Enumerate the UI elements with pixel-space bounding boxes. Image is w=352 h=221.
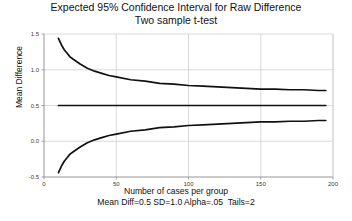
y-tick-label: 0.5	[31, 103, 40, 109]
y-tick-label: 0.0	[31, 138, 40, 144]
x-axis-label-block: Number of cases per group Mean Diff=0.5 …	[0, 186, 352, 208]
chart-figure: Expected 95% Confidence Interval for Raw…	[0, 0, 352, 221]
chart-parameters-note: Mean Diff=0.5 SD=1.0 Alpha=.05 Tails=2	[0, 197, 352, 208]
series-line	[58, 121, 325, 173]
y-tick-label: 1.0	[31, 67, 40, 73]
y-tick-label: -0.5	[29, 174, 40, 180]
series-line	[58, 38, 325, 90]
y-tick-label: 1.5	[31, 31, 40, 37]
x-axis-label: Number of cases per group	[0, 186, 352, 197]
